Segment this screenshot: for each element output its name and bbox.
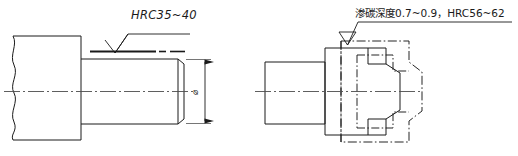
shaft-cylindrical-body bbox=[265, 62, 325, 124]
leader-line-left bbox=[115, 34, 190, 53]
carburizing-callout-right: 渗碳深度0.7~0.9，HRC56~62 bbox=[355, 5, 505, 20]
right-view-group bbox=[255, 22, 512, 142]
drawing-canvas: ⌀ bbox=[0, 0, 518, 156]
break-line bbox=[12, 36, 15, 140]
diameter-symbol: ⌀ bbox=[190, 89, 200, 95]
inverted-triangle-icon bbox=[339, 32, 356, 45]
technical-drawing-sheet: ⌀ bbox=[0, 0, 518, 156]
left-view-group: ⌀ bbox=[4, 34, 211, 140]
shaft-large-body bbox=[12, 36, 81, 140]
leader-line-right bbox=[348, 22, 513, 45]
hrc-callout-left: HRC35~40 bbox=[131, 8, 197, 22]
